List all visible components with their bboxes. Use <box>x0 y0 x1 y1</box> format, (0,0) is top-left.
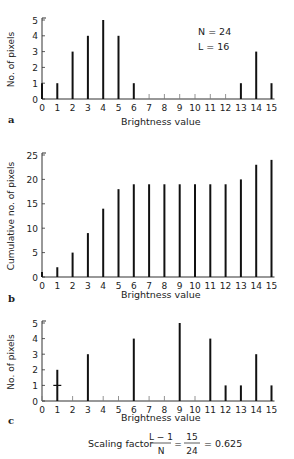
x-tick-label: 12 <box>220 281 231 291</box>
panel-label: b <box>8 293 15 304</box>
x-tick-label: 11 <box>205 405 216 415</box>
x-tick-label: 0 <box>39 103 45 113</box>
y-tick-label: 0 <box>32 273 38 283</box>
histogram-figure: 0123450123456789101112131415Brightness v… <box>0 0 294 459</box>
y-axis-label: Cumulative no. of pixels <box>6 161 16 270</box>
x-tick-label: 1 <box>54 103 60 113</box>
x-tick-label: 11 <box>205 281 216 291</box>
x-tick-label: 4 <box>100 103 106 113</box>
y-tick-label: 25 <box>27 151 38 161</box>
svg-text:N: N <box>158 446 165 456</box>
annotation-n: N = 24 <box>198 26 231 37</box>
x-tick-label: 13 <box>235 103 246 113</box>
svg-text:=: = <box>174 439 182 449</box>
x-axis-label: Brightness value <box>121 289 201 300</box>
y-tick-label: 15 <box>27 199 38 209</box>
y-tick-label: 2 <box>32 63 38 73</box>
y-tick-label: 0 <box>32 397 38 407</box>
x-tick-label: 15 <box>266 103 277 113</box>
x-tick-label: 15 <box>266 405 277 415</box>
x-tick-label: 14 <box>250 103 262 113</box>
y-tick-label: 3 <box>32 350 38 360</box>
x-tick-label: 2 <box>70 281 76 291</box>
panel-label: c <box>8 415 14 426</box>
x-tick-label: 0 <box>39 405 45 415</box>
annotation-l: L = 16 <box>198 41 229 52</box>
y-tick-label: 20 <box>27 175 39 185</box>
x-tick-label: 6 <box>131 103 137 113</box>
y-tick-label: 5 <box>32 248 38 258</box>
svg-text:= 0.625: = 0.625 <box>204 438 242 449</box>
y-tick-label: 4 <box>32 334 38 344</box>
x-tick-label: 3 <box>85 405 91 415</box>
x-tick-label: 1 <box>54 281 60 291</box>
x-tick-label: 10 <box>189 103 201 113</box>
x-tick-label: 3 <box>85 103 91 113</box>
x-tick-label: 8 <box>162 103 168 113</box>
chart-panel-a: 0123450123456789101112131415Brightness v… <box>6 16 277 128</box>
x-tick-label: 9 <box>177 103 183 113</box>
x-tick-label: 0 <box>39 281 45 291</box>
x-tick-label: 5 <box>116 103 122 113</box>
x-tick-label: 2 <box>70 405 76 415</box>
x-tick-label: 2 <box>70 103 76 113</box>
y-tick-label: 1 <box>32 381 38 391</box>
y-tick-label: 0 <box>32 95 38 105</box>
y-tick-label: 3 <box>32 47 38 57</box>
x-axis-label: Brightness value <box>121 412 201 423</box>
y-tick-label: 10 <box>27 224 39 234</box>
y-tick-label: 4 <box>32 31 38 41</box>
x-axis-label: Brightness value <box>121 116 201 127</box>
x-tick-label: 7 <box>146 103 152 113</box>
y-tick-label: 1 <box>32 79 38 89</box>
x-tick-label: 13 <box>235 405 246 415</box>
chart-panel-c: 0123450123456789101112131415Brightness v… <box>6 319 277 427</box>
y-tick-label: 5 <box>32 16 38 26</box>
x-tick-label: 3 <box>85 281 91 291</box>
x-tick-label: 13 <box>235 281 246 291</box>
y-axis-label: No. of pixels <box>6 32 16 88</box>
svg-text:24: 24 <box>186 446 198 456</box>
svg-text:Scaling factor: Scaling factor <box>88 438 153 449</box>
x-tick-label: 12 <box>220 103 231 113</box>
x-tick-label: 1 <box>54 405 60 415</box>
y-tick-label: 5 <box>32 319 38 329</box>
x-tick-label: 15 <box>266 281 277 291</box>
svg-text:L − 1: L − 1 <box>149 432 173 442</box>
x-tick-label: 4 <box>100 405 106 415</box>
chart-panel-b: 05101520250123456789101112131415Brightne… <box>6 151 277 305</box>
svg-text:15: 15 <box>186 432 197 442</box>
x-tick-label: 11 <box>205 103 216 113</box>
scaling-factor-formula: Scaling factorL − 1N=1524= 0.625 <box>88 432 242 456</box>
x-tick-label: 4 <box>100 281 106 291</box>
y-axis-label: No. of pixels <box>6 334 16 390</box>
panel-label: a <box>8 114 15 125</box>
x-tick-label: 14 <box>250 405 262 415</box>
y-tick-label: 2 <box>32 365 38 375</box>
x-tick-label: 14 <box>250 281 262 291</box>
x-tick-label: 12 <box>220 405 231 415</box>
